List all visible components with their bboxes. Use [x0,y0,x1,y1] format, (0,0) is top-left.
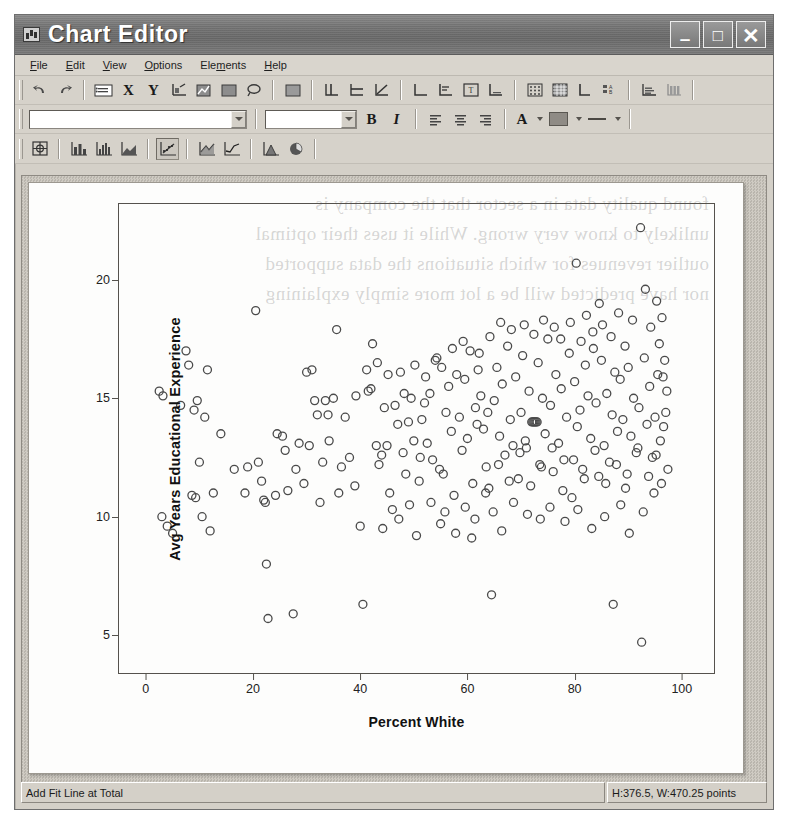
toolbar-grip[interactable] [19,80,23,100]
menu-item-view[interactable]: View [94,57,136,73]
align-right-icon[interactable] [474,108,497,130]
menu-item-options[interactable]: Options [135,57,191,73]
scatter-markers[interactable] [119,204,714,673]
toolbar-separator [186,139,188,159]
close-icon: ✕ [737,24,765,45]
line-area-icon[interactable] [195,138,218,160]
bold-button[interactable]: B [360,108,383,130]
y-axis-icon[interactable]: Y [142,79,165,101]
x-tick-label: 0 [142,673,149,696]
footnote-icon[interactable] [484,79,507,101]
toolbar-grip[interactable] [19,139,23,159]
x-axis-icon[interactable]: X [117,79,140,101]
window-controls: – □ ✕ [670,21,766,48]
add-interpolation-icon[interactable] [370,79,393,101]
svg-text:T: T [468,86,473,95]
scatter-plot-icon[interactable] [156,138,179,160]
scatter-matrix-icon[interactable] [523,79,546,101]
data-point-layer[interactable] [119,204,714,673]
toolbar-separator [58,139,60,159]
scatter-plot[interactable]: Avg Years Educational Experience Percent… [118,203,715,674]
fill-color-dropdown[interactable] [572,108,583,130]
menu-item-file[interactable]: File [21,57,57,73]
toolbar-separator [250,139,252,159]
font-size-select[interactable] [265,110,357,129]
line-chart-icon[interactable] [220,138,243,160]
bar-chart-icon[interactable] [67,138,90,160]
menu-item-help[interactable]: Help [255,57,296,73]
align-left-icon[interactable] [424,108,447,130]
maximize-icon: □ [704,26,732,43]
y-tick-label: 5 [103,628,119,642]
text-color-icon[interactable]: A [513,108,531,130]
toolbar-separator [504,109,506,129]
transpose-icon[interactable] [167,79,190,101]
text-color-glyph: A [517,112,528,127]
histogram-icon[interactable] [92,138,115,160]
chart-type-icon[interactable] [192,79,215,101]
undo-icon[interactable] [28,79,51,101]
fill-region-icon[interactable] [217,79,240,101]
properties-icon[interactable] [92,79,115,101]
minimize-icon: – [671,35,699,43]
y-axis-title[interactable]: Avg Years Educational Experience [167,317,183,560]
toolbar-separator [400,80,402,100]
add-fit-line-icon[interactable] [345,79,368,101]
grid-layout-icon[interactable] [28,138,51,160]
edit-toolbar: X Y [15,76,773,105]
toolbar-separator [628,80,630,100]
chart-type-toolbar [15,134,773,164]
x-tick-label: 20 [246,673,260,696]
chevron-down-icon[interactable] [231,111,246,128]
toolbar-separator [629,109,631,129]
y-tick-label: 10 [96,510,119,524]
grid-lines-icon[interactable] [548,79,571,101]
chart-canvas-area[interactable]: found quality data in a sector that the … [21,175,767,787]
minimize-button[interactable]: – [670,21,700,48]
line-style-icon[interactable] [585,108,609,130]
toolbar-separator [314,139,316,159]
lasso-select-icon[interactable] [242,79,265,101]
pattern-icon[interactable] [281,79,304,101]
font-name-select[interactable] [29,110,247,129]
fill-color-icon[interactable] [546,108,570,130]
chart-window-icon [23,27,40,42]
pie-chart-icon[interactable] [284,138,307,160]
area-chart-icon[interactable] [117,138,140,160]
text-color-dropdown[interactable] [533,108,544,130]
menu-item-edit[interactable]: Edit [57,57,94,73]
toolbar-separator [415,109,417,129]
bin-icon[interactable] [662,79,685,101]
menu-item-elements[interactable]: Elements [191,57,255,73]
title-icon[interactable]: T [459,79,482,101]
line-style-dropdown[interactable] [611,108,622,130]
title-bar: Chart Editor – □ ✕ [15,15,773,55]
show-y-axis-icon[interactable] [434,79,457,101]
x-tick-label: 100 [671,673,692,696]
scanned-page: Chart Editor – □ ✕ File Edit View Option… [0,0,788,830]
toolbar-separator [311,80,313,100]
toolbar-separator [147,139,149,159]
toolbar-separator [255,109,257,129]
x-axis-title[interactable]: Percent White [119,714,714,730]
chevron-down-icon[interactable] [341,111,356,128]
axis-label-icon[interactable] [573,79,596,101]
align-center-icon[interactable] [449,108,472,130]
redo-icon[interactable] [53,79,76,101]
italic-button[interactable]: I [385,108,408,130]
chart-editor-window: Chart Editor – □ ✕ File Edit View Option… [14,14,774,810]
menu-bar: File Edit View Options Elements Help [15,55,773,76]
status-message: Add Fit Line at Total [21,782,605,803]
legend-icon[interactable]: AB [598,79,621,101]
close-button[interactable]: ✕ [736,21,766,48]
data-label-icon[interactable] [637,79,660,101]
format-toolbar: B I A [15,105,773,134]
filled-area-icon[interactable] [259,138,282,160]
maximize-button[interactable]: □ [703,21,733,48]
toolbar-separator [83,80,85,100]
toolbar-grip[interactable] [19,109,23,129]
add-reference-line-icon[interactable] [320,79,343,101]
chart-sheet[interactable]: found quality data in a sector that the … [28,182,744,774]
show-x-axis-icon[interactable] [409,79,432,101]
window-title: Chart Editor [48,21,670,48]
